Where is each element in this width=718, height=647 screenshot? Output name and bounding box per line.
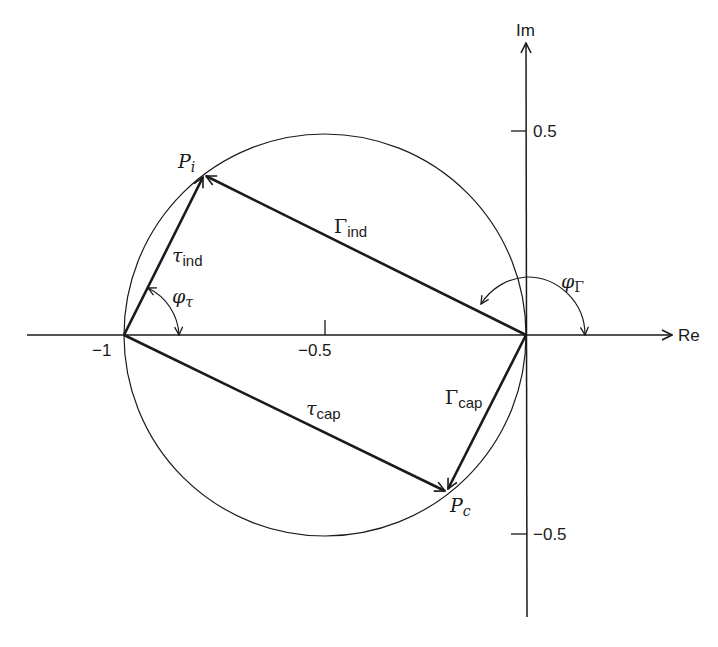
complex-plane-diagram: Re Im −1 −0.5 0.5 −0.5 Pi Pc bbox=[0, 0, 718, 647]
axes: Re Im −1 −0.5 0.5 −0.5 bbox=[27, 21, 700, 617]
tick-label-im-minus-half: −0.5 bbox=[533, 525, 567, 544]
label-phi-gamma: φΓ bbox=[561, 270, 584, 295]
vector-tau-cap bbox=[124, 335, 445, 491]
tick-label-re-minus-one: −1 bbox=[92, 341, 111, 360]
label-pi: Pi bbox=[177, 150, 195, 175]
label-tau-cap: τcap bbox=[306, 397, 341, 422]
imag-axis-label: Im bbox=[516, 21, 535, 40]
vector-gamma-ind bbox=[206, 176, 526, 335]
label-tau-ind: τind bbox=[172, 244, 203, 269]
real-axis-label: Re bbox=[678, 326, 700, 345]
label-gamma-cap: Γcap bbox=[445, 386, 482, 411]
tick-label-re-minus-half: −0.5 bbox=[298, 341, 332, 360]
label-pc: Pc bbox=[449, 494, 471, 519]
label-phi-tau: φτ bbox=[172, 285, 193, 310]
label-gamma-ind: Γind bbox=[334, 215, 367, 240]
tick-label-im-half: 0.5 bbox=[533, 122, 557, 141]
vector-gamma-cap bbox=[448, 335, 526, 489]
